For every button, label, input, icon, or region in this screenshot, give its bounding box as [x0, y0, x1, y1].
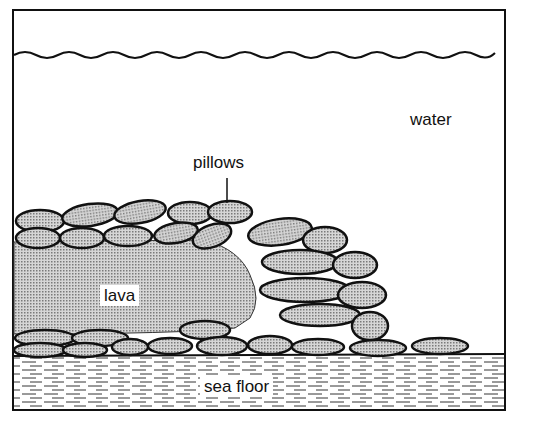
pillows-label: pillows: [193, 154, 244, 171]
lava-label: lava: [100, 285, 139, 306]
water-label: water: [410, 111, 452, 128]
pillow-lava-diagram: [0, 0, 537, 424]
sea-floor-label: sea floor: [200, 376, 273, 397]
